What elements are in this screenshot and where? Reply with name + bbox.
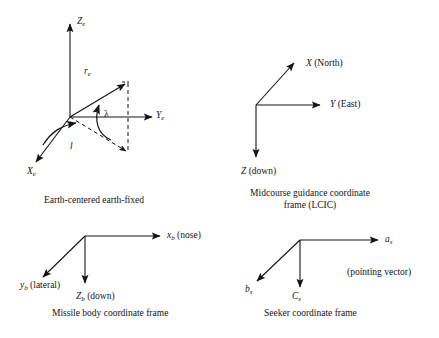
body-y-axis xyxy=(43,236,85,277)
ecef-position-vector-label: re xyxy=(84,66,91,78)
seeker-diagram xyxy=(257,240,378,287)
seeker-b-axis-label: bs xyxy=(245,284,252,296)
ecef-latitude-angle-label: λ xyxy=(104,108,109,120)
lcic-y-axis-label: Y (East) xyxy=(330,99,360,110)
body-caption: Missile body coordinate frame xyxy=(52,308,168,320)
ecef-y-axis-label: Ye xyxy=(156,110,164,122)
lcic-z-axis-label: Z (down) xyxy=(241,166,276,177)
body-diagram xyxy=(43,236,160,283)
seeker-caption: Seeker coordinate frame xyxy=(264,308,357,320)
ecef-dashed-projection xyxy=(70,117,126,151)
seeker-a-axis-label: as xyxy=(385,234,392,246)
ecef-longitude-angle-label: l xyxy=(70,141,73,152)
lcic-caption: Midcourse guidance coordinate frame (LCI… xyxy=(240,188,380,212)
ecef-x-axis xyxy=(36,117,70,162)
lcic-x-axis xyxy=(256,63,294,105)
body-z-axis-label: Zb (down) xyxy=(76,291,115,303)
lcic-x-axis-label: X (North) xyxy=(306,58,343,69)
body-x-axis-label: xb (nose) xyxy=(167,230,201,242)
seeker-pointing-vector-note: (pointing vector) xyxy=(347,267,411,278)
ecef-x-axis-label: Xe xyxy=(27,166,36,178)
body-y-axis-label: yb (lateral) xyxy=(20,280,60,292)
seeker-c-axis-label: Cs xyxy=(292,291,301,303)
figure-vector-graphics xyxy=(0,0,439,338)
ecef-caption: Earth-centered earth-fixed xyxy=(44,195,144,207)
lcic-diagram xyxy=(256,63,320,157)
ecef-diagram xyxy=(36,24,152,162)
ecef-z-axis-label: Ze xyxy=(77,16,85,28)
coordinate-frames-figure: Ze Ye Xe re λ l Earth-centered earth-fix… xyxy=(0,0,439,338)
seeker-b-axis xyxy=(257,240,300,281)
